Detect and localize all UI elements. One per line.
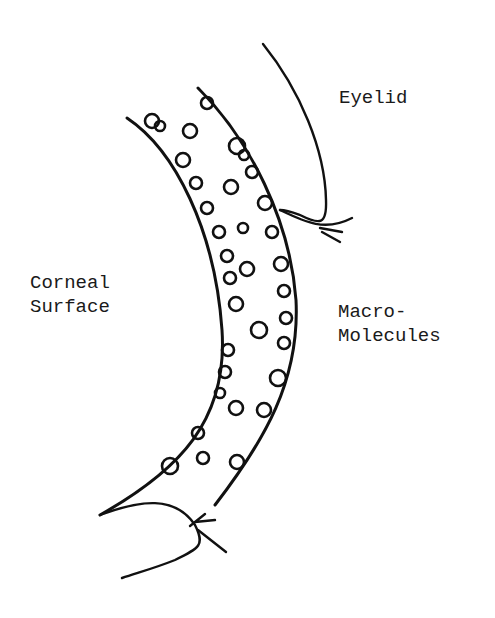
corneal-label-line1: Corneal [30,272,110,294]
corneal-edge-line [100,118,223,515]
upper-eyelid-line [263,44,326,221]
macro-label-line2: Molecules [338,325,441,347]
lower-eyelid-arrowhead [190,514,226,552]
upper-eyelid-arrowhead [280,210,352,242]
eyelid-label: Eyelid [339,86,407,110]
macromolecules-label: Macro- Molecules [338,300,441,348]
lower-eyelid-line [100,503,200,578]
corneal-label-line2: Surface [30,296,110,318]
diagram-canvas: Eyelid Corneal Surface Macro- Molecules [0,0,495,618]
corneal-surface-label: Corneal Surface [30,271,110,319]
macro-label-line1: Macro- [338,301,406,323]
